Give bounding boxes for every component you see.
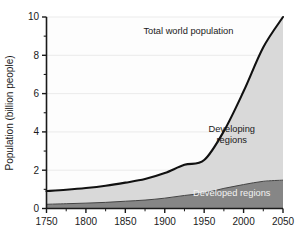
x-tick-label: 2050 [272,216,295,227]
x-tick-label: 1750 [35,216,58,227]
population-area-chart-figure: 0246810 1750180018501900195020002050 Pop… [0,0,299,240]
y-axis-title: Population (billion people) [4,55,15,170]
x-tick-label: 2000 [232,216,255,227]
annotation-developing-regions-line1: Developing [208,124,255,134]
annotation-developing-regions-line2: regions [217,135,248,145]
y-tick-label: 4 [33,126,39,137]
y-tick-label: 8 [33,50,39,61]
x-tick-label: 1900 [154,216,177,227]
annotation-developed-regions: Developed regions [193,188,271,198]
y-tick-label: 10 [28,11,40,22]
x-tick-label: 1850 [114,216,137,227]
y-tick-label: 0 [33,203,39,214]
annotation-total-world-population: Total world population [143,26,233,36]
x-tick-label: 1800 [75,216,98,227]
y-tick-label: 2 [33,165,39,176]
x-tick-label: 1950 [193,216,216,227]
chart-canvas: 0246810 1750180018501900195020002050 Pop… [0,0,299,240]
y-tick-label: 6 [33,88,39,99]
